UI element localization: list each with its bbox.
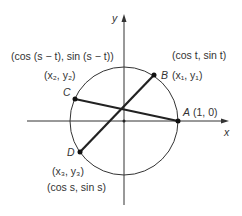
point-b [152,73,157,78]
point-d-coords: (x₃, y₃) [52,165,84,177]
y-axis-arrow-icon [122,14,127,22]
point-b-coords: (x₁, y₁) [172,69,202,81]
unit-circle-diagram: y x A (1, 0) B (x₁, y₁) (cos t, sin t) C… [0,0,242,216]
point-c-name: C [63,86,71,98]
origin-point [123,120,126,123]
point-d-name: D [67,146,75,158]
point-b-name: B [161,69,168,81]
point-a-name: A [182,106,190,118]
x-axis-label: x [223,126,230,138]
point-d [78,150,83,155]
y-axis-label: y [111,12,118,24]
x-axis-arrow-icon [221,119,229,124]
point-d-polar: (cos s, sin s) [47,181,106,193]
point-c-polar: (cos (s − t), sin (s − t)) [11,50,114,62]
point-b-polar: (cos t, sin t) [172,49,226,61]
point-a-coords: (1, 0) [193,106,218,118]
point-c-coords: (x₂, y₂) [44,69,75,81]
point-a [176,119,181,124]
point-c [73,97,78,102]
